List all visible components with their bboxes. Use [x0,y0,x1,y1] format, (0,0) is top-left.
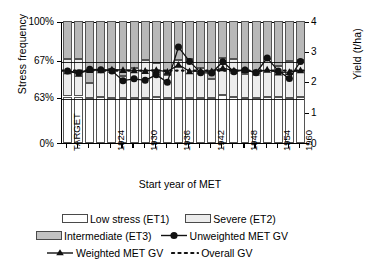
x-tickmark [132,144,133,148]
dotted-line-icon [171,247,199,258]
unweighted-met-gv-point [131,75,138,82]
et3-swatch-icon [36,231,62,240]
triangle-marker-icon [46,247,74,258]
y-tick-left-63: 63% [12,92,54,103]
x-tick-label: 1930 [148,130,159,151]
legend-label-low-stress: Low stress (ET1) [90,213,177,225]
y-tick-right-4: 4 [311,16,331,27]
legend-row-2: Intermediate (ET3) Unweighted MET GV [36,227,336,244]
x-tickmark [199,144,200,148]
y-tick-left-100: 100% [12,16,54,27]
x-tick-label: 1924 [115,130,126,151]
unweighted-met-gv-point [164,79,171,86]
x-tick-label: 1942 [215,130,226,151]
x-tickmark [266,144,267,148]
x-tick-label: 1954 [281,130,292,151]
legend-item-unweighted-met-gv: Unweighted MET GV [160,230,296,242]
unweighted-met-gv-point [264,55,271,62]
x-axis-title: Start year of MET [55,178,305,190]
unweighted-met-gv-point [219,58,226,65]
weighted-met-gv-point [175,61,183,68]
x-tickmark [166,144,167,148]
legend-item-intermediate: Intermediate (ET3) [36,230,160,242]
y-axis-right-title: Yield (t/ha) [351,0,363,114]
unweighted-met-gv-point [297,58,304,65]
et2-swatch-icon [185,214,211,223]
y-tick-right-1: 1 [311,107,331,118]
unweighted-met-gv-line [68,47,301,82]
chart-figure: Stress frequency Yield (t/ha) Start year… [0,0,368,270]
legend-label-severe: Severe (ET2) [213,213,283,225]
legend-label-overall-gv: Overall GV [201,247,260,259]
x-tickmark [277,144,278,148]
unweighted-met-gv-point [142,77,149,84]
y-tick-right-3: 3 [311,46,331,57]
unweighted-met-gv-point [175,44,182,51]
x-tickmark [210,144,211,148]
legend-item-low-stress: Low stress (ET1) [62,213,177,225]
legend-label-weighted-met-gv: Weighted MET GV [76,247,171,259]
legend-label-unweighted-met-gv: Unweighted MET GV [190,230,296,242]
legend-row-1: Low stress (ET1) Severe (ET2) [36,210,336,227]
legend-item-weighted-met-gv: Weighted MET GV [46,247,171,259]
x-tickmark [232,144,233,148]
x-tickmark [88,144,89,148]
weighted-met-gv-point [263,66,271,73]
unweighted-met-gv-point [186,58,193,65]
plot-area [61,22,305,144]
y-tick-left-0: 0% [12,138,54,149]
unweighted-met-gv-point [286,75,293,82]
y-tick-left-67: 67% [12,55,54,66]
x-tick-label: 1948 [248,130,259,151]
x-tickmark [177,144,178,148]
y-tick-right-0: 0 [311,138,331,149]
x-tickmark [299,144,300,148]
legend-label-intermediate: Intermediate (ET3) [64,230,160,242]
x-tick-label: 1936 [181,130,192,151]
x-tick-label: 1960 [303,130,314,151]
legend-item-severe: Severe (ET2) [185,213,283,225]
x-tickmark [243,144,244,148]
x-tickmark [144,144,145,148]
y-tick-right-2: 2 [311,76,331,87]
legend-row-3: Weighted MET GV Overall GV [36,244,336,261]
circle-marker-icon [160,230,188,241]
et1-swatch-icon [62,214,88,223]
unweighted-met-gv-point [120,77,127,84]
series-overlay [62,23,306,145]
x-tickmark [66,144,67,148]
x-tickmark [110,144,111,148]
x-tick-label: TARGET [71,113,82,151]
legend-item-overall-gv: Overall GV [171,247,260,259]
chart-legend: Low stress (ET1) Severe (ET2) Intermedia… [36,210,336,261]
x-tickmark [99,144,100,148]
